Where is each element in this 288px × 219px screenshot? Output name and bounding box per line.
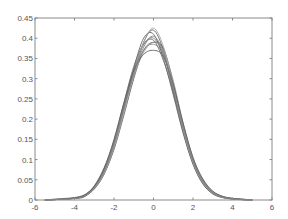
y-tick-label: 0.1 xyxy=(22,156,34,165)
x-tick-label: 2 xyxy=(191,203,196,212)
x-tick-label: 6 xyxy=(270,203,275,212)
density-curve-4 xyxy=(45,44,252,200)
density-chart: -6-4-20246 00.050.10.150.20.250.30.350.4… xyxy=(0,0,288,219)
series-lines xyxy=(45,28,252,200)
density-curve-2 xyxy=(45,38,252,200)
y-tick-label: 0 xyxy=(29,196,34,205)
density-curve-8 xyxy=(45,28,252,200)
y-axis-tick-labels: 00.050.10.150.20.250.30.350.40.45 xyxy=(17,14,33,205)
x-tick-label: -4 xyxy=(71,203,79,212)
plot-axes-box xyxy=(35,18,272,200)
y-tick-label: 0.4 xyxy=(22,34,34,43)
x-tick-label: 0 xyxy=(151,203,156,212)
y-tick-label: 0.15 xyxy=(17,135,33,144)
density-curve-7 xyxy=(45,39,252,200)
x-tick-label: -2 xyxy=(110,203,118,212)
y-tick-label: 0.3 xyxy=(22,75,34,84)
x-axis-tick-labels: -6-4-20246 xyxy=(31,203,274,212)
density-curve-5 xyxy=(45,32,252,200)
y-tick-label: 0.35 xyxy=(17,54,33,63)
density-curve-3 xyxy=(45,42,252,200)
axis-ticks xyxy=(35,18,272,200)
y-tick-label: 0.45 xyxy=(17,14,33,23)
density-curve-6 xyxy=(45,42,252,200)
y-tick-label: 0.2 xyxy=(22,115,34,124)
y-tick-label: 0.25 xyxy=(17,95,33,104)
density-curve-1 xyxy=(45,30,252,200)
density-curve-10 xyxy=(45,36,252,200)
y-tick-label: 0.05 xyxy=(17,176,33,185)
x-tick-label: 4 xyxy=(230,203,235,212)
density-curve-9 xyxy=(45,50,252,200)
